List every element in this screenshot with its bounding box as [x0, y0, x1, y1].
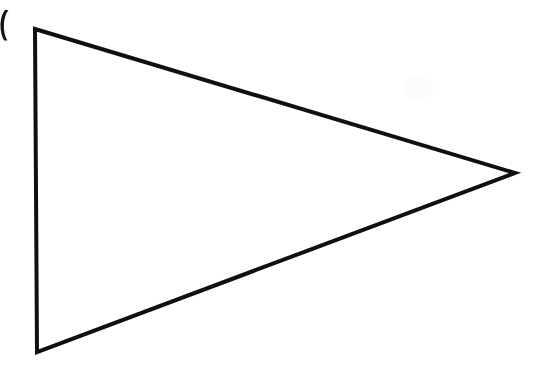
figure-canvas — [0, 0, 539, 368]
figure-background — [0, 0, 539, 368]
figure-drawing-area — [0, 0, 539, 368]
scan-artifact-smudge — [402, 75, 434, 101]
